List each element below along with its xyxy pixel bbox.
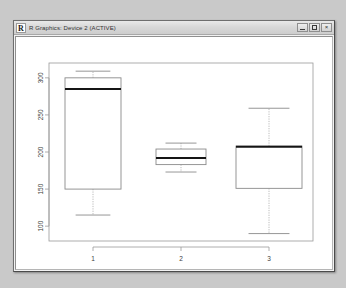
- r-app-icon: R: [16, 23, 26, 33]
- r-graphics-window: R R Graphics: Device 2 (ACTIVE) × 100150…: [13, 20, 335, 272]
- y-axis-tick-label: 300: [37, 72, 44, 83]
- minimize-button[interactable]: [297, 23, 308, 32]
- plot-canvas: 100150200250300 123: [15, 36, 333, 270]
- window-controls: ×: [297, 23, 332, 32]
- maximize-icon: [310, 24, 319, 31]
- boxplot-figure: 100150200250300 123: [16, 37, 332, 269]
- box-iqr: [236, 146, 302, 188]
- y-axis-tick-label: 150: [37, 183, 44, 194]
- boxplot-box: [156, 143, 206, 172]
- window-title: R Graphics: Device 2 (ACTIVE): [29, 25, 297, 31]
- x-axis: 123: [91, 247, 271, 262]
- boxplot-box: [65, 71, 121, 215]
- y-axis-tick-label: 250: [37, 109, 44, 120]
- box-iqr: [156, 149, 206, 165]
- x-axis-tick-label: 1: [91, 255, 95, 262]
- minimize-icon: [298, 24, 307, 31]
- y-axis-tick-label: 100: [37, 220, 44, 231]
- close-icon: ×: [322, 24, 331, 31]
- close-button[interactable]: ×: [321, 23, 332, 32]
- window-titlebar[interactable]: R R Graphics: Device 2 (ACTIVE) ×: [14, 21, 334, 35]
- maximize-button[interactable]: [309, 23, 320, 32]
- y-axis-tick-label: 200: [37, 146, 44, 157]
- boxplot-box: [236, 108, 302, 233]
- box-iqr: [65, 78, 121, 189]
- x-axis-tick-label: 3: [267, 255, 271, 262]
- boxplot-series: [65, 71, 302, 233]
- x-axis-tick-label: 2: [179, 255, 183, 262]
- y-axis: 100150200250300: [37, 72, 49, 232]
